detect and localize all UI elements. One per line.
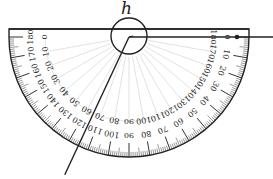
inner-scale-label: 0 — [40, 34, 49, 39]
protractor-diagram: 1800170101602015030140401305012060110701… — [0, 0, 273, 179]
inner-scale-label: 80 — [109, 115, 121, 126]
point-dot — [235, 35, 240, 40]
outer-scale-label: 90 — [124, 131, 134, 140]
protractor-figure: 1800170101602015030140401305012060110701… — [0, 0, 273, 179]
outer-scale-label: 180 — [26, 29, 35, 44]
inner-scale-label: 10 — [40, 46, 51, 58]
inner-scale-label: 90 — [124, 117, 134, 126]
angle-label: h — [121, 0, 132, 18]
outer-scale-label: 80 — [140, 129, 152, 140]
outer-scale-label: 10 — [221, 48, 232, 60]
